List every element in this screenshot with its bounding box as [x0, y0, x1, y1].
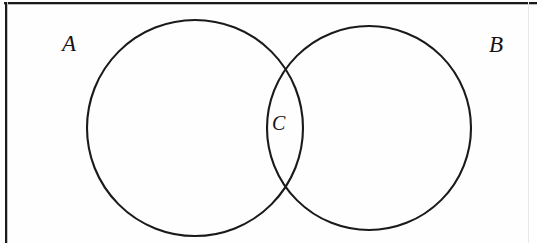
circle-set-a [87, 20, 303, 236]
venn-circles-svg [0, 0, 537, 243]
set-label-a: A [62, 32, 76, 55]
intersection-label-c: C [272, 113, 285, 133]
venn-diagram-figure: A B C [0, 0, 537, 243]
set-label-b: B [489, 33, 503, 56]
circle-set-b [267, 26, 471, 230]
